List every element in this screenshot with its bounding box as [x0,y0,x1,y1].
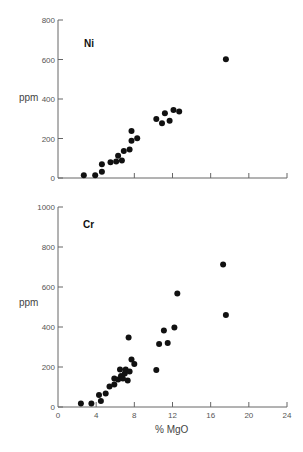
cr-data-point [117,366,123,372]
cr-axis-lines [58,207,287,407]
ni-data-point [119,158,125,164]
cr-data-point [165,340,171,346]
ni-data-point [121,148,127,154]
ni-panel-label: Ni [84,38,94,49]
ni-data-point [159,120,165,126]
ni-scatter-panel: Ni ppm 0200400600800 [19,16,287,183]
ni-data-point [92,172,98,178]
cr-y-tick-label: 1000 [37,203,55,212]
cr-scatter-panel: Cr ppm 0200400600800100004812162024 % Mg… [19,203,292,435]
cr-data-point [98,398,104,404]
cr-data-point [131,361,137,367]
cr-data-point [127,369,133,375]
ni-data-point [81,172,87,178]
ni-y-tick-label: 0 [51,174,56,183]
ni-data-point [127,146,133,152]
cr-x-tick-label: 8 [132,411,137,420]
ni-y-tick-label: 800 [42,16,56,25]
cr-y-tick-label: 600 [42,283,56,292]
cr-data-point [223,312,229,318]
cr-data-point [103,390,109,396]
ni-y-tick-label: 200 [42,135,56,144]
cr-data-point [171,324,177,330]
ni-data-point [162,110,168,116]
scatter-charts: Ni ppm 0200400600800 Cr ppm 020040060080… [0,0,303,452]
cr-y-tick-label: 800 [42,243,56,252]
ni-axes: 0200400600800 [42,16,287,183]
ni-data-point [223,56,229,62]
cr-x-tick-label: 16 [206,411,215,420]
ni-y-tick-label: 400 [42,95,56,104]
cr-data-point [156,341,162,347]
cr-data-points [78,262,229,407]
cr-data-point [96,392,102,398]
ni-data-point [129,128,135,134]
cr-data-point [153,367,159,373]
ni-y-tick-label: 600 [42,56,56,65]
cr-y-axis-title: ppm [19,297,38,308]
cr-x-tick-label: 20 [244,411,253,420]
cr-data-point [78,400,84,406]
cr-x-tick-label: 0 [56,411,61,420]
cr-x-tick-label: 4 [94,411,99,420]
cr-y-tick-label: 200 [42,363,56,372]
cr-data-point [174,291,180,297]
cr-data-point [125,378,131,384]
ni-y-axis-title: ppm [19,92,38,103]
ni-data-point [167,118,173,124]
cr-data-point [111,381,117,387]
cr-x-tick-label: 12 [168,411,177,420]
ni-data-point [99,169,105,175]
cr-data-point [220,262,226,268]
cr-data-point [88,400,94,406]
cr-data-point [126,335,132,341]
cr-data-point [161,328,167,334]
x-axis-title: % MgO [155,424,189,435]
ni-data-point [171,107,177,113]
ni-data-point [129,138,135,144]
cr-axes: 0200400600800100004812162024 [37,203,292,420]
ni-data-point [115,153,121,159]
cr-y-tick-label: 400 [42,323,56,332]
ni-data-points [81,56,229,178]
ni-data-point [134,135,140,141]
ni-data-point [176,109,182,115]
cr-x-tick-label: 24 [283,411,292,420]
ni-data-point [153,116,159,122]
ni-data-point [99,161,105,167]
ni-data-point [108,159,114,165]
cr-panel-label: Cr [83,219,94,230]
ni-data-point [113,159,119,165]
